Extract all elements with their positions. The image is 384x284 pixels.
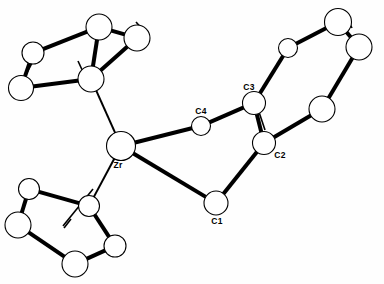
atom-cpA4: [9, 76, 34, 101]
atom-cpA3: [22, 42, 44, 64]
bond-zr-cpA0: [96, 90, 116, 134]
bond-c2-c1: [223, 151, 258, 194]
bond-cpA4-cpA0: [32, 81, 79, 87]
atom-zr: [107, 132, 136, 161]
atom-cpA0: [78, 66, 104, 92]
ortep-structure-figure: ZrC1C2C3C4: [0, 0, 384, 284]
bond-layer: [22, 28, 353, 259]
atom-c4: [192, 117, 211, 136]
bond-cpB4-cpB0: [94, 214, 109, 238]
bond-cpA0-cpA1: [93, 39, 97, 67]
atom-r6a: [279, 39, 298, 58]
atom-cpB0: [79, 196, 100, 217]
bond-zr-c1: [133, 153, 207, 197]
atom-layer: [5, 9, 372, 278]
molecular-structure-canvas: ZrC1C2C3C4: [0, 0, 384, 284]
bond-cpB3-cpB4: [86, 250, 106, 259]
atom-c1: [204, 191, 228, 215]
atom-r6b: [325, 9, 352, 36]
bond-zr-c4: [134, 128, 193, 143]
bond-cpB1-cpB2: [22, 198, 27, 213]
atom-c2: [253, 132, 276, 155]
atom-cpA2: [124, 25, 150, 51]
bond-r6a-r6b: [296, 28, 327, 44]
atom-label-zr: Zr: [114, 160, 123, 170]
atom-cpB2: [5, 212, 31, 238]
atom-cpB3: [62, 251, 88, 277]
atom-cpA1: [86, 14, 112, 40]
atom-cpB1: [19, 179, 40, 200]
atom-c3: [243, 92, 266, 115]
bond-r6d-c2: [273, 115, 312, 138]
bond-zr-cpB0: [93, 158, 114, 198]
bond-cpB2-cpB3: [28, 232, 65, 257]
atom-r6c: [346, 34, 372, 60]
bond-r6c-r6d: [328, 57, 353, 98]
bond-cpB0-cpB1: [38, 192, 80, 204]
atom-label-c2: C2: [274, 150, 285, 160]
bond-cpA0-cpA2: [100, 46, 128, 71]
atom-label-c4: C4: [195, 106, 206, 116]
atom-r6d: [309, 96, 335, 122]
bond-cpA1-cpA3: [42, 31, 88, 49]
bond-cpA2-cpA1: [111, 30, 126, 34]
bond-c3-r6a: [260, 55, 284, 94]
atom-label-c3: C3: [243, 82, 254, 92]
bond-c4-c3: [209, 107, 245, 122]
atom-label-c1: C1: [211, 216, 222, 226]
atom-cpB4: [104, 235, 126, 257]
